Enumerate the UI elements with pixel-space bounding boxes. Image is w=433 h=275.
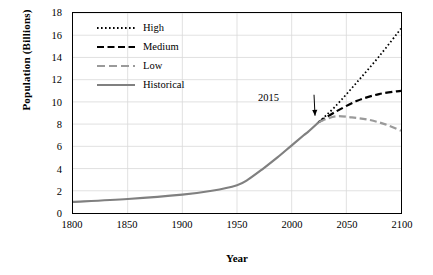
y-tick-16: 16: [38, 30, 62, 41]
legend-key-dotted-black-icon: [96, 22, 136, 34]
legend-key-dashed-black-icon: [96, 41, 136, 53]
x-tick-1900: 1900: [162, 219, 202, 230]
legend-item-high: High: [96, 18, 204, 37]
y-tick-8: 8: [38, 119, 62, 130]
series-line-historical: [73, 122, 319, 202]
y-tick-2: 2: [38, 186, 62, 197]
y-tick-4: 4: [38, 164, 62, 175]
x-tick-2050: 2050: [327, 219, 367, 230]
x-tick-1800: 1800: [52, 219, 92, 230]
x-tick-2000: 2000: [272, 219, 312, 230]
y-tick-12: 12: [38, 74, 62, 85]
x-axis-title: Year: [72, 252, 402, 264]
x-tick-1950: 1950: [217, 219, 257, 230]
y-tick-18: 18: [38, 7, 62, 18]
series-line-high: [319, 29, 401, 122]
x-tick-2100: 2100: [382, 219, 422, 230]
annotation-2015-label: 2015: [258, 92, 279, 103]
y-tick-6: 6: [38, 141, 62, 152]
legend-label-low: Low: [143, 60, 162, 72]
y-tick-0: 0: [38, 208, 62, 219]
series-line-low: [319, 116, 401, 131]
legend-label-historical: Historical: [143, 79, 184, 91]
x-tick-1850: 1850: [107, 219, 147, 230]
y-axis-title: Population (Billions): [20, 0, 32, 140]
annotation-arrow-head: [312, 110, 317, 116]
legend-key-dashed-gray-icon: [96, 60, 136, 72]
legend-key-solid-gray-icon: [96, 79, 136, 91]
legend-label-medium: Medium: [143, 41, 179, 53]
legend-item-historical: Historical: [96, 75, 204, 94]
legend-item-low: Low: [96, 56, 204, 75]
y-tick-14: 14: [38, 52, 62, 63]
legend: High Medium Low Historical: [96, 18, 204, 94]
legend-label-high: High: [143, 22, 164, 34]
y-tick-10: 10: [38, 97, 62, 108]
population-projection-chart: Population (Billions) 0 2 4 6 8 10 12 14…: [0, 0, 433, 275]
legend-item-medium: Medium: [96, 37, 204, 56]
